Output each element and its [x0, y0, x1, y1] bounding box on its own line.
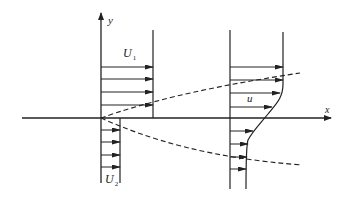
x-axis-label: x [324, 104, 330, 115]
downstream-profile [230, 30, 283, 189]
lower-velocity-label: U2 [105, 172, 119, 188]
velocity-profile-curve [246, 32, 283, 189]
lower-velocity-symbol: U [105, 172, 115, 186]
local-velocity-label: u [247, 92, 253, 104]
upper-velocity-symbol: U [123, 46, 133, 60]
inlet-upper-profile [101, 30, 153, 118]
y-axis-label: y [107, 14, 113, 26]
upper-velocity-subscript: 1 [133, 54, 137, 62]
lower-dashed-boundary [101, 118, 302, 165]
lower-velocity-subscript: 2 [115, 180, 119, 188]
upper-velocity-label: U1 [123, 46, 137, 62]
mixing-layer-diagram: y x U1 U2 u [0, 0, 345, 202]
